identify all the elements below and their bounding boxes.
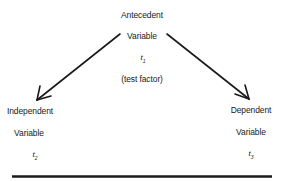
- independent-symbol: t2: [32, 150, 37, 161]
- antecedent-variable-label: Variable: [127, 31, 157, 41]
- test-factor-note: (test factor): [121, 74, 163, 84]
- arrow-to-dependent: [167, 34, 249, 99]
- antecedent-symbol: t1: [140, 53, 145, 64]
- independent-variable-label: Variable: [14, 128, 44, 138]
- dependent-label: Dependent: [231, 105, 272, 115]
- dependent-variable-label: Variable: [236, 127, 266, 137]
- arrow-to-independent: [37, 34, 120, 100]
- independent-label: Independent: [7, 106, 53, 116]
- dependent-symbol: t3: [248, 149, 253, 160]
- diagram-canvas: [0, 0, 284, 181]
- antecedent-label: Antecedent: [121, 10, 163, 20]
